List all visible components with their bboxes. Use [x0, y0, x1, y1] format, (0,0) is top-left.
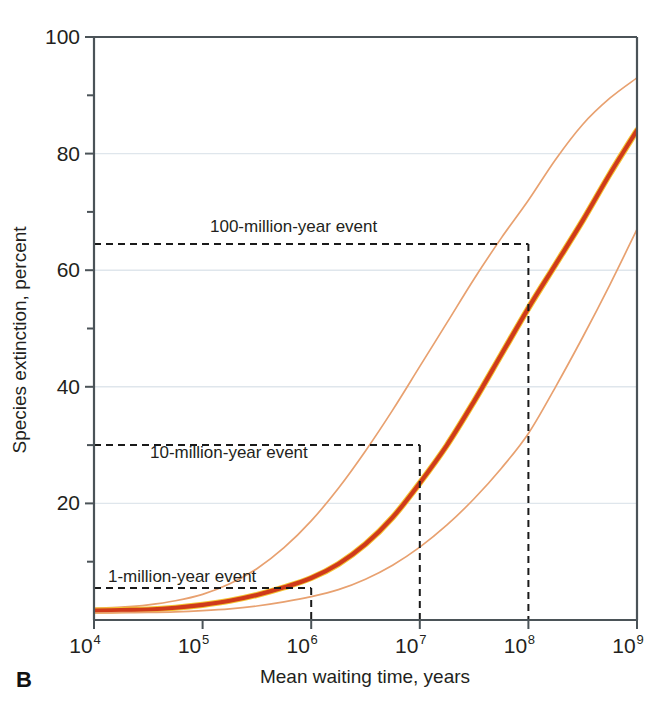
- x-tick-exponent-10^9: 9: [636, 632, 643, 647]
- x-tick-mantissa-10^6: 10: [287, 634, 310, 657]
- x-tick-mantissa-10^5: 10: [178, 634, 201, 657]
- x-tick-label-10^7: 107: [395, 632, 426, 657]
- x-tick-label-10^8: 108: [504, 632, 535, 657]
- axes-group: [85, 37, 637, 629]
- y-tick-label-100: 100: [45, 25, 80, 48]
- y-tick-label-20: 20: [57, 491, 80, 514]
- curve-lower-confidence-band: [94, 229, 637, 613]
- curve-median-extinction-curve: [94, 130, 637, 610]
- x-tick-label-10^6: 106: [287, 632, 318, 657]
- y-axis-title: Species extinction, percent: [9, 226, 30, 454]
- x-tick-exponent-10^4: 4: [93, 632, 100, 647]
- x-axis-title: Mean waiting time, years: [260, 666, 470, 687]
- y-tick-label-80: 80: [57, 142, 80, 165]
- panel-label-b: B: [16, 667, 32, 692]
- x-tick-label-10^9: 109: [612, 632, 643, 657]
- curves-group: [94, 78, 637, 613]
- x-tick-exponent-10^7: 7: [419, 632, 426, 647]
- x-tick-mantissa-10^8: 10: [504, 634, 527, 657]
- x-tick-exponent-10^5: 5: [202, 632, 209, 647]
- x-tick-label-10^4: 104: [69, 632, 100, 657]
- curve-upper-confidence-band: [94, 78, 637, 609]
- chart-svg: 1-million-year event10-million-year even…: [0, 0, 669, 710]
- x-tick-exponent-10^8: 8: [528, 632, 535, 647]
- annot-label-1-million-year-event: 1-million-year event: [108, 567, 257, 586]
- y-tick-label-60: 60: [57, 258, 80, 281]
- x-tick-exponent-10^6: 6: [311, 632, 318, 647]
- x-tick-mantissa-10^7: 10: [395, 634, 418, 657]
- x-tick-mantissa-10^4: 10: [69, 634, 92, 657]
- annot-label-100-million-year-event: 100-million-year event: [210, 217, 378, 236]
- annot-label-10-million-year-event: 10-million-year event: [150, 443, 308, 462]
- extinction-magnitude-figure: 1-million-year event10-million-year even…: [0, 0, 669, 710]
- curve-median-extinction-curve-highlight: [94, 130, 637, 610]
- x-tick-mantissa-10^9: 10: [612, 634, 635, 657]
- x-tick-label-10^5: 105: [178, 632, 209, 657]
- y-tick-label-40: 40: [57, 375, 80, 398]
